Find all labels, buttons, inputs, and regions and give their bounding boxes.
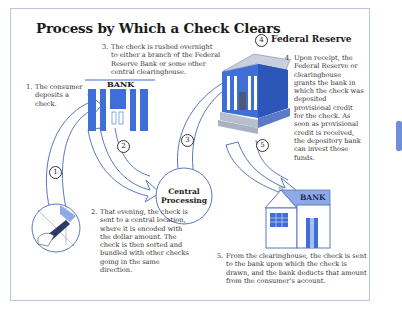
hand-deposit-illustration xyxy=(32,204,80,252)
step-marker-2: 2 xyxy=(117,140,130,153)
federal-reserve-label: Federal Reserve xyxy=(271,34,351,44)
side-tab-marker xyxy=(396,121,402,151)
step-1-text: 1. The consumer deposits a check. xyxy=(35,83,85,108)
step-2-text: 2. That evening, the check is sent to a … xyxy=(100,208,192,274)
step-4-text: 4. Upon receipt, the Federal Reserve or … xyxy=(294,54,364,162)
step-3-text: 3. The check is rushed overnight to eith… xyxy=(111,43,221,76)
bank-label-top: BANK xyxy=(107,79,134,89)
step-marker-5: 5 xyxy=(256,139,269,152)
step-marker-1: 1 xyxy=(49,166,62,179)
bank-label-bottom: BANK xyxy=(300,193,326,202)
step-marker-3: 3 xyxy=(181,134,194,147)
step-marker-4: 4 xyxy=(255,34,268,47)
central-processing-label: Central Processing xyxy=(160,187,208,205)
federal-reserve-building xyxy=(218,54,290,134)
step-5-text: 5. From the clearinghouse, the check is … xyxy=(226,252,370,285)
